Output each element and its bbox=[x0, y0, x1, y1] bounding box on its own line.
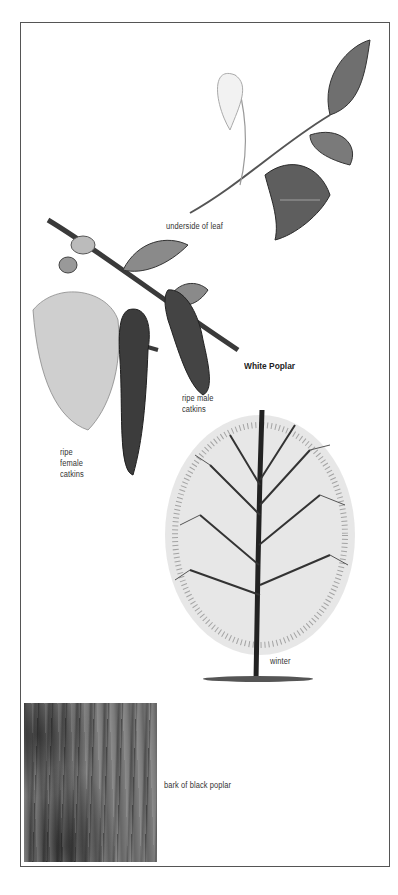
caption-ripe-female-catkins-line2: female bbox=[60, 458, 83, 469]
caption-winter: winter bbox=[270, 656, 290, 667]
bark-of-black-poplar-image bbox=[24, 703, 157, 862]
species-title: White Poplar bbox=[244, 360, 295, 371]
winter-tree-illustration bbox=[160, 395, 360, 685]
caption-ripe-female-catkins-line3: catkins bbox=[60, 469, 84, 480]
caption-ripe-female-catkins-line1: ripe bbox=[60, 447, 73, 458]
caption-bark-of-black-poplar: bark of black poplar bbox=[164, 780, 231, 791]
